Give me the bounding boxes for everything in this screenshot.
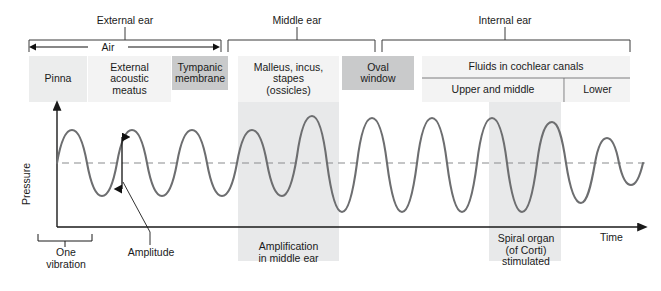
annotation-amplification: Amplification in middle ear	[238, 241, 339, 264]
y-axis-label: Pressure	[20, 163, 32, 205]
ear-sound-wave-diagram: External ear Middle ear Internal ear	[0, 0, 661, 291]
annotation-spiral-organ: Spiral organ (of Corti) stimulated	[486, 233, 566, 268]
x-axis-label: Time	[600, 231, 623, 243]
annotation-one-vibration: One vibration	[36, 247, 96, 270]
annotation-amplitude: Amplitude	[118, 247, 184, 259]
